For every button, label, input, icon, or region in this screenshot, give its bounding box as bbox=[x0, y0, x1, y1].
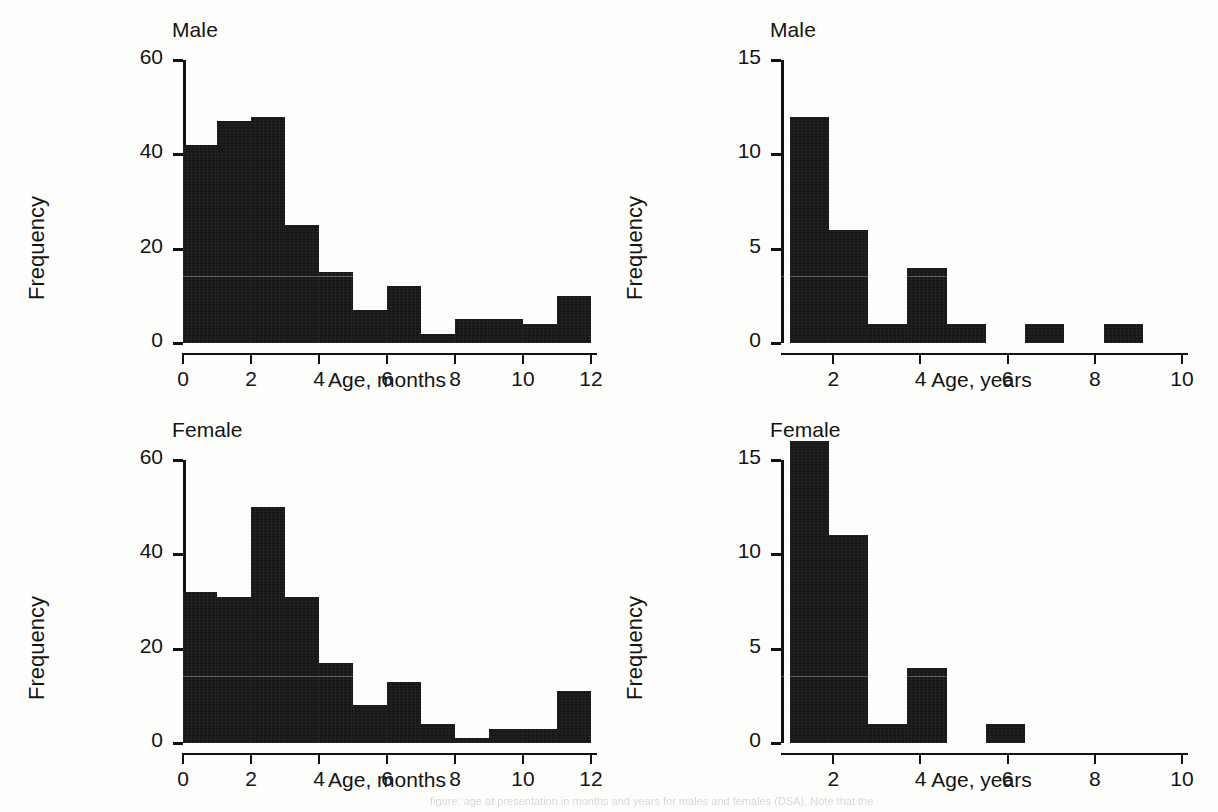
y-tick bbox=[173, 742, 183, 745]
figure-canvas: MaleFrequencyAge, months0204060024681012… bbox=[0, 0, 1218, 812]
histogram-bar bbox=[790, 441, 829, 743]
histogram-bar bbox=[986, 724, 1025, 743]
histogram-bar bbox=[523, 324, 557, 343]
y-axis-label: Frequency bbox=[622, 196, 648, 300]
x-tick bbox=[386, 753, 388, 764]
histogram-bar bbox=[557, 296, 591, 343]
y-tick-label: 15 bbox=[695, 445, 761, 469]
x-tick-label: 10 bbox=[1137, 367, 1218, 391]
y-axis-label: Frequency bbox=[24, 596, 50, 700]
y-tick bbox=[771, 248, 781, 251]
y-tick-label: 60 bbox=[97, 45, 163, 69]
x-tick-label: 8 bbox=[1050, 767, 1140, 791]
x-tick bbox=[454, 353, 456, 364]
y-tick-label: 40 bbox=[97, 539, 163, 563]
x-axis-line bbox=[183, 753, 597, 755]
y-tick bbox=[173, 248, 183, 251]
panel-title: Male bbox=[172, 18, 218, 42]
x-tick bbox=[182, 753, 184, 764]
y-axis-line bbox=[781, 460, 784, 743]
histogram-bar bbox=[421, 724, 455, 743]
y-tick bbox=[771, 459, 781, 462]
x-tick bbox=[250, 753, 252, 764]
x-axis-line bbox=[183, 353, 597, 355]
x-tick bbox=[522, 353, 524, 364]
histogram-bar bbox=[421, 334, 455, 343]
y-tick bbox=[173, 553, 183, 556]
histogram-bar bbox=[557, 691, 591, 743]
x-tick bbox=[1181, 753, 1183, 764]
x-tick bbox=[250, 353, 252, 364]
x-tick bbox=[386, 353, 388, 364]
y-axis-label: Frequency bbox=[24, 196, 50, 300]
histogram-bar bbox=[523, 729, 557, 743]
histogram-bar bbox=[868, 724, 907, 743]
histogram-bar bbox=[947, 324, 986, 343]
y-tick bbox=[173, 648, 183, 651]
histogram-bar bbox=[251, 117, 285, 343]
histogram-bar bbox=[1104, 324, 1143, 343]
histogram-bar bbox=[489, 319, 523, 343]
x-tick-label: 4 bbox=[875, 367, 965, 391]
histogram-bar bbox=[907, 668, 946, 743]
x-tick-label: 2 bbox=[788, 767, 878, 791]
panel-title: Female bbox=[770, 418, 841, 442]
histogram-bar bbox=[353, 705, 387, 743]
x-tick-label: 6 bbox=[963, 767, 1053, 791]
x-tick-label: 4 bbox=[875, 767, 965, 791]
histogram-bar bbox=[183, 145, 217, 343]
histogram-bar bbox=[387, 286, 421, 343]
histogram-bar bbox=[285, 225, 319, 343]
x-tick bbox=[919, 353, 921, 364]
panel-title: Female bbox=[172, 418, 243, 442]
x-tick bbox=[522, 753, 524, 764]
x-tick bbox=[1007, 353, 1009, 364]
y-tick-label: 10 bbox=[695, 139, 761, 163]
y-tick-label: 10 bbox=[695, 539, 761, 563]
x-axis-line bbox=[781, 753, 1188, 755]
x-tick bbox=[832, 353, 834, 364]
y-tick-label: 40 bbox=[97, 139, 163, 163]
x-tick-label: 12 bbox=[546, 367, 636, 391]
panel-title: Male bbox=[770, 18, 816, 42]
y-tick bbox=[771, 648, 781, 651]
histogram-bar bbox=[907, 268, 946, 343]
y-axis-label: Frequency bbox=[622, 596, 648, 700]
x-tick bbox=[590, 353, 592, 364]
y-tick bbox=[173, 59, 183, 62]
x-tick bbox=[454, 753, 456, 764]
x-tick-label: 2 bbox=[788, 367, 878, 391]
histogram-bar bbox=[790, 117, 829, 343]
histogram-bar bbox=[217, 121, 251, 343]
x-tick bbox=[182, 353, 184, 364]
y-tick bbox=[173, 342, 183, 345]
y-tick-label: 0 bbox=[97, 728, 163, 752]
y-tick-label: 0 bbox=[695, 728, 761, 752]
histogram-bar bbox=[868, 324, 907, 343]
x-axis-line bbox=[781, 353, 1188, 355]
histogram-bar bbox=[183, 592, 217, 743]
y-tick bbox=[173, 459, 183, 462]
y-tick-label: 20 bbox=[97, 234, 163, 258]
histogram-bar bbox=[455, 738, 489, 743]
histogram-bar bbox=[319, 663, 353, 743]
histogram-bar bbox=[829, 535, 868, 743]
x-tick bbox=[832, 753, 834, 764]
x-tick bbox=[590, 753, 592, 764]
x-tick bbox=[1007, 753, 1009, 764]
y-tick-label: 0 bbox=[97, 328, 163, 352]
x-tick-label: 6 bbox=[963, 367, 1053, 391]
x-tick bbox=[1181, 353, 1183, 364]
histogram-bar bbox=[387, 682, 421, 743]
footer-caption-fragment: figure: age at presentation in months an… bbox=[430, 795, 1210, 807]
y-tick-label: 5 bbox=[695, 634, 761, 658]
histogram-bar bbox=[251, 507, 285, 743]
y-tick-label: 20 bbox=[97, 634, 163, 658]
histogram-bar bbox=[353, 310, 387, 343]
histogram-bar bbox=[285, 597, 319, 743]
y-axis-line bbox=[781, 60, 784, 343]
x-tick bbox=[1094, 753, 1096, 764]
x-tick bbox=[318, 353, 320, 364]
x-tick bbox=[1094, 353, 1096, 364]
histogram-bar bbox=[319, 272, 353, 343]
